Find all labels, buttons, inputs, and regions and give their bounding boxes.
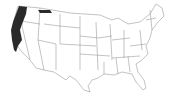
state-outlines <box>12 4 164 92</box>
us-map <box>0 0 175 111</box>
